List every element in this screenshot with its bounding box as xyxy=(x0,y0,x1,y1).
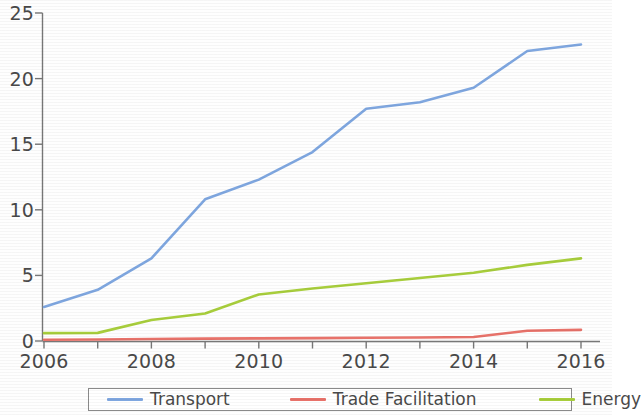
legend-label-energy: Energy xyxy=(582,391,641,408)
y-tick-label-20: 20 xyxy=(0,68,34,90)
x-tick-label-2012: 2012 xyxy=(331,350,401,372)
axis-lines xyxy=(43,13,601,342)
series-line-trade-facilitation xyxy=(44,330,581,340)
plot-area: 0510152025 200620082010201220142016 xyxy=(0,0,612,372)
chart-legend: Transport Trade Facilitation Energy xyxy=(88,388,572,411)
x-tick-label-2016: 2016 xyxy=(546,350,616,372)
y-tick-label-25: 25 xyxy=(0,2,34,24)
legend-swatch-trade-facilitation xyxy=(290,398,326,401)
y-tick-label-5: 5 xyxy=(0,264,34,286)
legend-entry-energy: Energy xyxy=(539,389,641,410)
chart-canvas xyxy=(0,0,612,372)
legend-label-transport: Transport xyxy=(150,391,230,408)
y-tick-label-0: 0 xyxy=(0,330,34,352)
x-tick-label-2014: 2014 xyxy=(439,350,509,372)
y-tick-label-10: 10 xyxy=(0,199,34,221)
series-line-energy xyxy=(44,258,581,333)
x-tick-label-2010: 2010 xyxy=(224,350,294,372)
x-tick-label-2006: 2006 xyxy=(9,350,79,372)
data-series-group xyxy=(44,44,581,339)
legend-entry-trade-facilitation: Trade Facilitation xyxy=(290,389,477,410)
legend-swatch-transport xyxy=(107,398,143,401)
x-tick-label-2008: 2008 xyxy=(116,350,186,372)
y-tick-label-15: 15 xyxy=(0,133,34,155)
legend-entry-transport: Transport xyxy=(107,389,230,410)
legend-label-trade-facilitation: Trade Facilitation xyxy=(333,391,477,408)
y-axis-ticks xyxy=(35,13,43,341)
x-axis-ticks xyxy=(44,342,581,349)
legend-swatch-energy xyxy=(539,398,575,401)
